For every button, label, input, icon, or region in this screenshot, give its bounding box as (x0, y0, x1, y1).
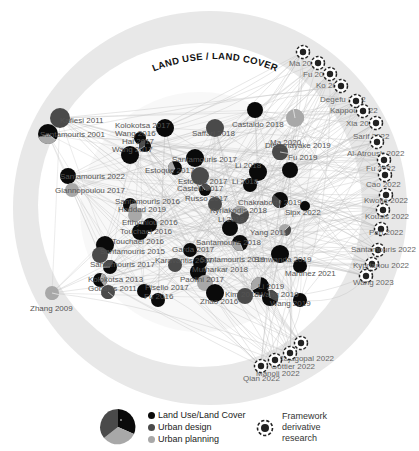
framework-label: Kyprianou 2022 (353, 261, 410, 270)
publication-label: Russo 2017 (185, 194, 228, 203)
publication-label: Castelli 2017 (177, 184, 224, 193)
publication-label: Zhao 2016 (200, 297, 239, 306)
publication-label: Paolini 2017 (180, 275, 225, 284)
legend-item-framework: Framework derivative research (256, 411, 327, 444)
publication-label: Wang 2019 (258, 290, 299, 299)
publication-label: Fu 2016 (144, 292, 174, 301)
publication-label: Li 2018 (232, 177, 259, 186)
publication-label: Haddad 2019 (118, 205, 167, 214)
framework-node-icon[interactable] (255, 360, 268, 373)
publication-label: Efthymiou 2016 (122, 218, 178, 227)
publication-label: Estoque 2017 (145, 166, 195, 175)
publication-node[interactable] (282, 162, 298, 178)
publication-label: Li 2018 (218, 215, 245, 224)
legend-item-urban-design: Urban design (148, 421, 246, 433)
framework-node-icon[interactable] (297, 46, 310, 59)
legend-pie-icon (98, 407, 138, 447)
framework-label: Al-Atroush 2022 (347, 149, 405, 158)
framework-node-icon[interactable] (324, 68, 337, 81)
urban-design-dot-icon (148, 424, 155, 431)
publication-node[interactable] (45, 286, 59, 300)
framework-node-icon[interactable] (357, 105, 370, 118)
publication-label: Li 2018 (235, 161, 262, 170)
framework-label: Kousis 2022 (365, 212, 410, 221)
framework-node-icon[interactable] (335, 80, 348, 93)
publication-label: Garda 2017 (172, 245, 215, 254)
urban-planning-dot-icon (148, 436, 155, 443)
framework-node-icon[interactable] (371, 136, 384, 149)
legend-item-land-use: Land Use/Land Cover (148, 409, 246, 421)
framework-label: Qian 2022 (243, 374, 280, 383)
publication-label: Santamouris 2017 (172, 155, 237, 164)
framework-node-icon (256, 419, 274, 437)
publication-label: Giannopoulou 2017 (55, 186, 125, 195)
publication-label: Santamouris 2017 (90, 260, 155, 269)
publication-label: Gobakis 2011 (88, 284, 137, 293)
publication-label: Zhang 2009 (30, 304, 73, 313)
legend: Land Use/Land Cover Urban design Urban p… (98, 405, 358, 449)
publication-label: Wang 2019 (270, 299, 311, 308)
publication-label: Santamouris 2015 (100, 247, 165, 256)
framework-node-icon[interactable] (312, 57, 325, 70)
publication-label: Pisello 2017 (145, 283, 189, 292)
framework-node-icon[interactable] (370, 117, 383, 130)
publication-label: Santamouris 2022 (60, 172, 125, 181)
framework-label: Pan 2022 (369, 228, 404, 237)
publication-label: Mutharkar 2018 (192, 265, 249, 274)
publication-label: Castaldo 2018 (232, 120, 284, 129)
publication-label: Santamouris 2001 (40, 130, 105, 139)
land-use-dot-icon (148, 412, 155, 419)
publication-label: Saffari 2018 (192, 129, 236, 138)
framework-label: Santamouris 2022 (351, 245, 416, 254)
publication-label: Yang 2019 (250, 228, 289, 237)
publication-node[interactable] (286, 109, 304, 127)
legend-category-list: Land Use/Land Cover Urban design Urban p… (148, 409, 246, 445)
publication-label: Martinez 2021 (285, 269, 336, 278)
publication-label: Fu 2019 (288, 153, 318, 162)
publication-label: Touchaei 2016 (120, 227, 173, 236)
publication-label: Kyriakodis 2018 (210, 206, 267, 215)
publication-label: Kolokotsa 2013 (88, 275, 144, 284)
publication-label: Sipx 2022 (285, 208, 321, 217)
publication-label: Wang 2017 (112, 145, 153, 154)
citation-network-diagram: Kafiesi 2011Santamouris 2001Kolokotsa 20… (0, 0, 419, 451)
framework-label: Cao 2022 (366, 180, 401, 189)
legend-item-urban-planning: Urban planning (148, 433, 246, 445)
framework-node-icon[interactable] (295, 337, 308, 350)
framework-node-icon[interactable] (269, 354, 282, 367)
publication-label: Dissanayake 2019 (265, 141, 331, 150)
publication-label: Touchaei 2016 (112, 237, 165, 246)
publication-label: Santamouris 2019 (200, 255, 265, 264)
framework-label: Wang 2023 (353, 278, 394, 287)
publication-node[interactable] (247, 102, 263, 118)
publication-label: Kafiesi 2011 (60, 116, 104, 125)
framework-label: Kappou 2022 (330, 106, 378, 115)
framework-node-icon[interactable] (284, 347, 297, 360)
